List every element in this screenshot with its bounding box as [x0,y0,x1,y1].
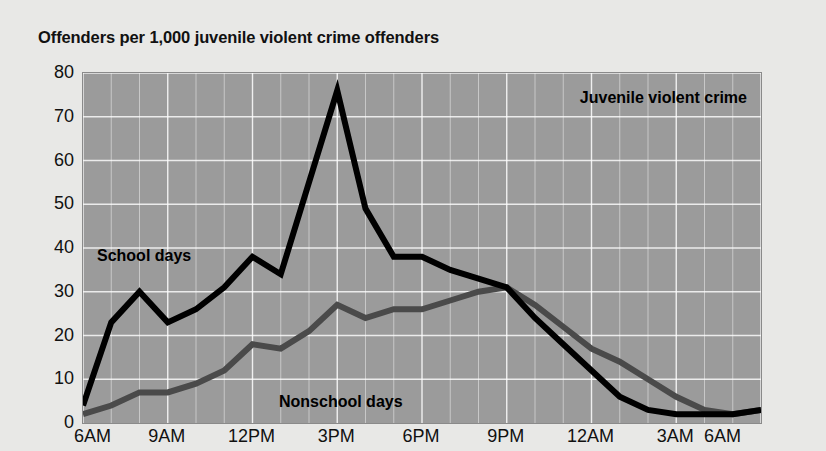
x-axis-tick-label: 6PM [402,426,439,447]
annotation-nonschool-days: Nonschool days [279,393,403,411]
chart-page: Offenders per 1,000 juvenile violent cri… [0,0,826,451]
chart-title: Offenders per 1,000 juvenile violent cri… [38,28,439,47]
y-axis-tick-label: 10 [34,368,74,389]
y-axis-tick-label: 40 [34,237,74,258]
x-axis-tick-label: 6AM [704,426,741,447]
plot-inner: Juvenile violent crime School days Nonsc… [83,73,761,423]
x-axis-tick-label: 12PM [228,426,275,447]
x-axis-tick-label: 9PM [487,426,524,447]
y-axis-tick-label: 70 [34,105,74,126]
y-axis-tick-label: 20 [34,324,74,345]
x-axis-tick-label: 6AM [74,426,111,447]
y-axis-tick-label: 0 [34,412,74,433]
y-axis-tick-label: 30 [34,280,74,301]
x-axis-tick-label: 9AM [148,426,185,447]
y-axis-tick-label: 50 [34,193,74,214]
annotation-school-days: School days [97,247,191,265]
y-axis-tick-label: 80 [34,62,74,83]
y-axis-tick-label: 60 [34,149,74,170]
x-axis-tick-label: 3PM [318,426,355,447]
x-axis: 6AM9AM12PM3PM6PM9PM12AM3AM6AM [82,426,760,451]
y-axis: 80706050403020100 [28,72,74,422]
x-axis-tick-label: 12AM [567,426,614,447]
plot-area: Juvenile violent crime School days Nonsc… [82,72,762,424]
annotation-juvenile-violent-crime: Juvenile violent crime [580,89,747,107]
x-axis-tick-label: 3AM [657,426,694,447]
